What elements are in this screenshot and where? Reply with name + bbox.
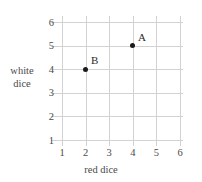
x-tick-label-2: 2: [78, 147, 94, 158]
gridline-y-4: [51, 69, 183, 70]
data-point-b-label: B: [91, 55, 98, 66]
y-tick-label-2: 2: [38, 111, 54, 122]
gridline-y-5: [51, 46, 183, 47]
x-tick-label-4: 4: [125, 147, 141, 158]
gridline-y-3: [51, 93, 183, 94]
x-tick-label-1: 1: [54, 147, 70, 158]
x-tick-label-3: 3: [101, 147, 117, 158]
gridline-x-1: [62, 16, 63, 146]
y-tick-label-6: 6: [38, 17, 54, 28]
y-axis-title: white dice: [2, 64, 42, 90]
plot-area: A B: [62, 22, 180, 140]
x-axis-title: red dice: [0, 164, 202, 176]
data-point-a: [130, 43, 135, 48]
scatter-chart: A B 1 2 3 4 5 6 6 5 4 3 2 1 white dice r…: [0, 0, 202, 182]
y-tick-label-5: 5: [38, 40, 54, 51]
x-tick-label-5: 5: [148, 147, 164, 158]
gridline-x-6: [180, 16, 181, 146]
data-point-b: [83, 67, 88, 72]
y-tick-label-1: 1: [38, 135, 54, 146]
y-axis-title-line1: white: [2, 64, 42, 77]
gridline-y-6: [51, 22, 183, 23]
gridline-x-2: [86, 16, 87, 146]
gridline-x-5: [156, 16, 157, 146]
gridline-x-3: [109, 16, 110, 146]
gridline-x-4: [133, 16, 134, 146]
gridline-y-2: [51, 116, 183, 117]
data-point-a-label: A: [138, 32, 146, 43]
y-axis-title-line2: dice: [2, 77, 42, 90]
x-tick-label-6: 6: [172, 147, 188, 158]
gridline-y-1: [51, 140, 183, 141]
